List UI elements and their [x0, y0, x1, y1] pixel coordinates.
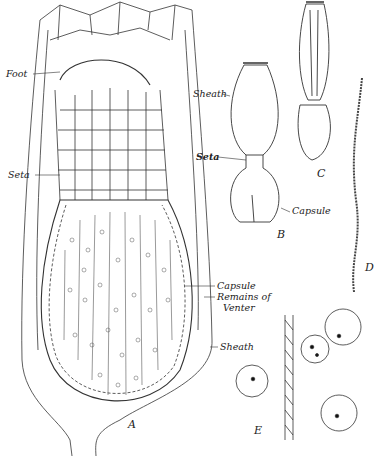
figure-letter-a: A [128, 419, 136, 430]
panel-d-elater [353, 78, 362, 292]
panel-b-drawing [218, 63, 290, 222]
panel-a-spores [68, 230, 170, 387]
panel-c-drawing [298, 2, 330, 160]
label-a-seta: Seta [8, 170, 30, 180]
label-b-seta: Seta [196, 152, 219, 162]
panel-a-seta [55, 90, 168, 200]
figure-letter-b: B [277, 229, 285, 240]
label-b-sheath: Sheath [193, 89, 227, 99]
figure-letter-c: C [317, 168, 325, 179]
figure-letter-e: E [254, 425, 262, 436]
illustration-canvas [0, 0, 376, 456]
panel-a-foot [60, 60, 150, 85]
label-b-capsule: Capsule [292, 206, 331, 216]
label-a-capsule: Capsule [217, 281, 256, 291]
panel-a-sheath-outline [22, 20, 72, 456]
label-a-sheath: Sheath [220, 342, 254, 352]
label-a-foot: Foot [6, 69, 27, 79]
label-a-remains-of: Remains of [217, 292, 271, 302]
figure-letter-d: D [365, 262, 374, 273]
label-a-venter: Venter [223, 303, 255, 313]
panel-e-drawing [236, 309, 361, 440]
panel-a-capsule [41, 200, 192, 401]
